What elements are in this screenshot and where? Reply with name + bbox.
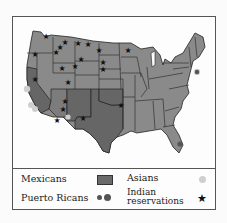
svg-text:★: ★ [71, 62, 78, 71]
legend-indian-line2: reservations [127, 196, 184, 206]
legend-indian-label: Indian reservations [127, 188, 184, 205]
svg-text:★: ★ [84, 40, 91, 49]
legend: Mexicans Asians Puerto Ricans Indian res… [13, 168, 215, 210]
legend-puerto-ricans-label: Puerto Ricans [21, 193, 88, 203]
map-figure: ★ ★ ★ ★ ★ ★ ★ ★ ★ ★ ★ ★ ★ ★ ★ ★ ★ ★ ★ ★ … [12, 16, 216, 210]
svg-text:★: ★ [53, 116, 60, 125]
legend-asians-label: Asians [127, 173, 158, 183]
svg-text:★: ★ [64, 78, 71, 87]
svg-text:★: ★ [31, 75, 38, 84]
asians-dot-icon [199, 176, 206, 183]
svg-text:★: ★ [99, 65, 106, 74]
puerto-ricans-small-dot-icon [97, 195, 102, 200]
svg-text:★: ★ [95, 46, 102, 55]
svg-text:★: ★ [52, 48, 59, 57]
svg-text:★: ★ [59, 105, 66, 114]
svg-text:★: ★ [79, 114, 86, 123]
star-icon: ★ [197, 193, 207, 204]
mexicans-swatch [97, 175, 113, 185]
lake-michigan [151, 51, 155, 67]
legend-mexicans-label: Mexicans [21, 174, 67, 184]
svg-text:★: ★ [74, 39, 81, 48]
svg-text:★: ★ [117, 101, 124, 110]
svg-text:★: ★ [42, 32, 49, 41]
us-map: ★ ★ ★ ★ ★ ★ ★ ★ ★ ★ ★ ★ ★ ★ ★ ★ ★ ★ ★ ★ … [13, 17, 215, 168]
svg-text:★: ★ [31, 50, 38, 59]
svg-text:★: ★ [124, 46, 131, 55]
svg-text:★: ★ [58, 64, 65, 73]
puerto-ricans-large-dot-icon [104, 194, 111, 201]
